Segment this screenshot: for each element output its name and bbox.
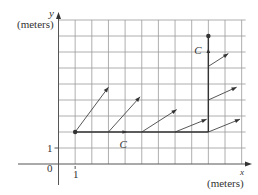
axis-labels: y (meters) x (meters) 0 1 1: [17, 7, 244, 190]
arrowhead-icon: [201, 119, 206, 123]
curve-end-point: [206, 34, 210, 38]
x-tick-label-1: 1: [73, 168, 79, 180]
vector-arrow: [175, 119, 207, 132]
axes: [18, 12, 252, 185]
diagram-canvas: y (meters) x (meters) 0 1 1 CC: [0, 0, 258, 195]
vector-field-arrows: [75, 54, 240, 132]
curve-start-point: [73, 130, 77, 134]
grid: [59, 20, 246, 164]
y-axis-unit-label: (meters): [17, 18, 54, 31]
y-axis-arrowhead-icon: [56, 12, 61, 19]
arrowhead-icon: [104, 87, 109, 92]
arrowhead-icon: [171, 110, 176, 114]
vector-arrow: [108, 97, 140, 132]
y-tick-label-1: 1: [47, 142, 53, 154]
curve-label-c: C: [194, 44, 202, 56]
x-axis-label: x: [239, 167, 244, 177]
arrowhead-icon: [231, 87, 236, 91]
x-axis-arrowhead-icon: [245, 162, 252, 167]
vector-arrow: [142, 110, 177, 132]
arrowhead-icon: [234, 119, 239, 123]
vector-arrow: [208, 119, 240, 132]
curve-label-c: C: [119, 138, 127, 150]
arrowhead-icon: [223, 54, 228, 58]
x-axis-unit-label: (meters): [207, 177, 244, 190]
origin-label: 0: [47, 162, 53, 174]
direction-arrowhead-icon: [206, 48, 210, 53]
line-integral-figure: y (meters) x (meters) 0 1 1 CC: [0, 0, 258, 195]
